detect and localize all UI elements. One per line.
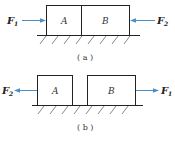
caption-a: ( a ) — [77, 53, 93, 62]
figure-a: A B F1 F2 ( a ) — [6, 6, 168, 63]
force-label-f1-b: F1 — [160, 85, 172, 97]
force-label-f2-a: F2 — [156, 15, 168, 27]
figure-b: A B F2 F1 ( b ) — [1, 76, 172, 133]
block-label-a: A — [51, 86, 59, 96]
force-diagram: A B F1 F2 ( a ) A B F2 — [0, 0, 175, 146]
ground-hatching-a — [40, 36, 130, 44]
force-label-f1-a: F1 — [6, 15, 18, 27]
ground-hatching-b — [38, 106, 128, 114]
block-label-b: B — [101, 16, 109, 26]
force-label-f2-b: F2 — [1, 85, 13, 97]
block-label-a: A — [60, 16, 68, 26]
caption-b: ( b ) — [77, 123, 93, 132]
block-label-b: B — [107, 86, 115, 96]
